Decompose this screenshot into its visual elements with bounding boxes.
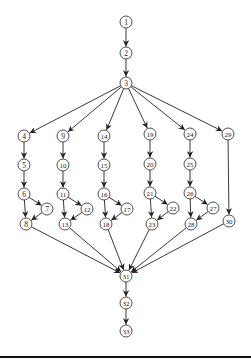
node-label: 16 — [101, 191, 109, 199]
node-27: 27 — [207, 202, 219, 214]
node-label: 4 — [22, 132, 26, 141]
edge-18-31 — [108, 230, 124, 270]
node-16: 16 — [98, 188, 110, 200]
node-22: 22 — [167, 202, 179, 214]
edge-11-12 — [68, 197, 81, 205]
node-28: 28 — [185, 218, 197, 230]
edge-27-28 — [196, 212, 208, 221]
dag-diagram: 1234567891011121314151617181920212223242… — [0, 0, 251, 361]
node-31: 31 — [120, 270, 132, 282]
node-8: 8 — [20, 218, 32, 230]
node-4: 4 — [18, 130, 30, 142]
node-11: 11 — [57, 188, 69, 200]
bottom-rule-divider — [0, 356, 251, 358]
node-label: 13 — [62, 221, 70, 229]
node-label: 31 — [123, 273, 131, 281]
edge-3-14 — [106, 89, 123, 130]
node-label: 8 — [24, 220, 28, 229]
node-1: 1 — [120, 16, 132, 28]
node-label: 22 — [170, 205, 178, 213]
node-32: 32 — [120, 297, 132, 309]
node-26: 26 — [184, 187, 196, 199]
node-19: 19 — [144, 128, 156, 140]
node-7: 7 — [41, 203, 53, 215]
edge-16-17 — [109, 197, 122, 205]
node-label: 10 — [60, 162, 68, 170]
node-25: 25 — [184, 158, 196, 170]
node-18: 18 — [100, 218, 112, 230]
node-label: 18 — [103, 221, 111, 229]
edge-11-13 — [63, 200, 64, 218]
edge-13-31 — [70, 228, 121, 272]
edge-29-30 — [228, 140, 229, 215]
node-label: 28 — [188, 221, 196, 229]
node-21: 21 — [144, 187, 156, 199]
edge-26-28 — [190, 199, 191, 218]
edge-7-8 — [31, 212, 42, 220]
edge-21-22 — [155, 196, 168, 204]
node-label: 26 — [187, 190, 195, 198]
edge-26-27 — [195, 196, 208, 204]
node-14: 14 — [98, 130, 110, 142]
nodes-layer: 1234567891011121314151617181920212223242… — [18, 16, 235, 337]
edge-12-13 — [70, 212, 82, 220]
node-33: 33 — [120, 325, 132, 337]
node-24: 24 — [184, 128, 196, 140]
node-label: 12 — [84, 206, 92, 214]
node-label: 9 — [61, 132, 65, 141]
node-15: 15 — [98, 159, 110, 171]
node-label: 3 — [124, 79, 128, 88]
node-label: 24 — [187, 131, 195, 139]
node-2: 2 — [120, 47, 132, 59]
node-label: 20 — [147, 161, 155, 169]
node-label: 15 — [101, 162, 109, 170]
node-label: 19 — [147, 131, 155, 139]
node-23: 23 — [146, 218, 158, 230]
node-label: 27 — [210, 205, 218, 213]
node-label: 14 — [101, 133, 109, 141]
node-label: 32 — [123, 300, 131, 308]
node-label: 30 — [226, 218, 234, 226]
node-label: 33 — [123, 328, 131, 336]
edge-22-23 — [157, 212, 168, 220]
edge-3-19 — [129, 88, 148, 128]
node-17: 17 — [121, 203, 133, 215]
node-label: 25 — [187, 161, 195, 169]
node-12: 12 — [81, 203, 93, 215]
edge-17-18 — [111, 212, 122, 220]
node-label: 6 — [22, 190, 26, 199]
node-label: 23 — [149, 221, 157, 229]
edge-16-18 — [104, 200, 105, 218]
node-label: 2 — [124, 49, 128, 58]
node-13: 13 — [59, 218, 71, 230]
edge-21-23 — [150, 199, 151, 218]
node-label: 11 — [60, 191, 67, 199]
node-3: 3 — [120, 77, 132, 89]
edge-23-31 — [129, 229, 149, 270]
node-label: 1 — [124, 18, 128, 27]
node-label: 5 — [22, 161, 26, 170]
edge-6-7 — [29, 197, 42, 205]
node-5: 5 — [18, 159, 30, 171]
node-10: 10 — [57, 159, 69, 171]
node-9: 9 — [57, 130, 69, 142]
node-29: 29 — [222, 128, 234, 140]
edge-30-31 — [132, 224, 224, 273]
node-6: 6 — [18, 188, 30, 200]
node-label: 21 — [147, 190, 155, 198]
node-label: 29 — [225, 131, 233, 139]
node-label: 7 — [45, 205, 49, 214]
edge-6-8 — [24, 200, 25, 218]
node-label: 17 — [124, 206, 132, 214]
node-30: 30 — [223, 215, 235, 227]
node-20: 20 — [144, 158, 156, 170]
